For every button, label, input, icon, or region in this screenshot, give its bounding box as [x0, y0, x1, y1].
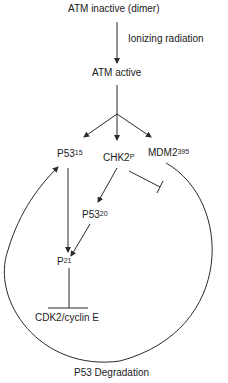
node-label: P53 Degradation: [74, 367, 149, 378]
edge-label: Ionizing radiation: [128, 33, 204, 44]
node-cdk2-cyclin-e: CDK2/cyclin E: [35, 312, 99, 324]
degradation-loop-arc: [4, 163, 212, 362]
node-p53-20: P5320: [82, 209, 108, 221]
node-superscript: 15: [75, 149, 83, 156]
node-label: ATM inactive (dimer): [68, 3, 160, 14]
node-superscript: 395: [177, 148, 189, 155]
node-superscript: P: [130, 153, 135, 160]
node-mdm2: MDM2395: [148, 147, 189, 159]
arrow-chk2-to-p53-20: [98, 168, 117, 202]
inhibit-chk2-to-mdm2: [129, 171, 160, 187]
node-atm-inactive: ATM inactive (dimer): [68, 3, 160, 15]
pathway-diagram: [0, 0, 228, 383]
node-superscript: 21: [64, 257, 72, 264]
node-label: CHK2: [103, 152, 130, 163]
node-atm-active: ATM active: [92, 67, 141, 79]
arrow-p53-20-to-p21: [71, 224, 90, 256]
node-label: CDK2/cyclin E: [35, 312, 99, 323]
arrow-to-mdm2: [117, 114, 151, 137]
inhibit-bar-chk2: [157, 181, 163, 193]
node-p53-15: P5315: [57, 148, 83, 160]
edge-label-ionizing-radiation: Ionizing radiation: [128, 33, 204, 45]
node-chk2: CHK2P: [103, 152, 134, 164]
node-label: P: [57, 256, 64, 267]
node-label: P53: [82, 209, 100, 220]
node-superscript: 20: [100, 210, 108, 217]
arrow-to-p53-15: [84, 114, 117, 137]
node-p53-degradation: P53 Degradation: [74, 367, 149, 379]
node-label: MDM2: [148, 147, 177, 158]
node-label: P53: [57, 148, 75, 159]
node-p21: P21: [57, 256, 71, 268]
node-label: ATM active: [92, 67, 141, 78]
